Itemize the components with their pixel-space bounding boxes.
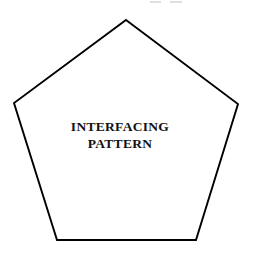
pattern-label-line-2: PATTERN bbox=[0, 135, 240, 152]
pattern-label-line-1: INTERFACING bbox=[0, 118, 240, 135]
pattern-label: INTERFACING PATTERN bbox=[0, 118, 240, 152]
pattern-figure-canvas: INTERFACING PATTERN bbox=[0, 0, 254, 257]
